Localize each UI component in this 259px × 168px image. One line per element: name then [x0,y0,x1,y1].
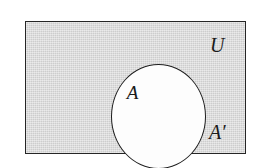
venn-diagram: A U A′ [0,0,259,168]
complement-label: A′ [209,122,226,142]
universe-label: U [210,35,224,55]
set-a-circle [111,64,206,168]
set-a-label: A [112,83,153,102]
